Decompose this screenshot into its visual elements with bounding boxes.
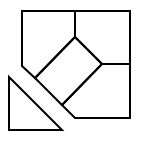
puzzle-diagram (0, 0, 146, 142)
detached-triangle-piece (9, 77, 62, 130)
center-rotated-rectangle-piece (35, 37, 102, 105)
bottom-right-pentagon-piece (62, 64, 130, 118)
top-right-square-piece (75, 11, 130, 64)
